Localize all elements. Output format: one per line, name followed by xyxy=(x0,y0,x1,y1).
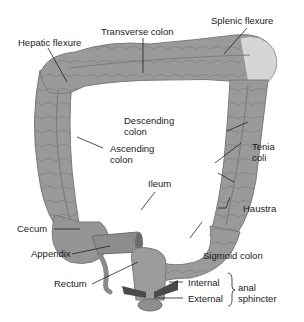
label-transverse-colon: Transverse colon xyxy=(101,26,174,37)
label-sigmoid-colon: Sigmoid colon xyxy=(203,250,263,261)
label-anal-sphincter: anal sphincter xyxy=(238,282,277,304)
label-splenic-flexure: Splenic flexure xyxy=(211,15,273,26)
label-ascending-colon: Ascending colon xyxy=(110,143,154,165)
label-hepatic-flexure: Hepatic flexure xyxy=(18,37,81,48)
label-external-sphincter: External xyxy=(188,293,223,304)
label-descending-colon: Descending colon xyxy=(124,115,174,137)
large-intestine-diagram: Transverse colon Splenic flexure Hepatic… xyxy=(0,0,304,322)
appendix-shape xyxy=(100,255,110,292)
label-appendix: Appendix xyxy=(31,248,71,259)
label-haustra: Haustra xyxy=(243,203,276,214)
label-rectum: Rectum xyxy=(54,278,87,289)
label-ileum: Ileum xyxy=(148,178,171,189)
label-internal-sphincter: Internal xyxy=(188,277,220,288)
label-tenia-coli: Tenia coli xyxy=(252,141,275,163)
label-cecum: Cecum xyxy=(17,223,47,234)
